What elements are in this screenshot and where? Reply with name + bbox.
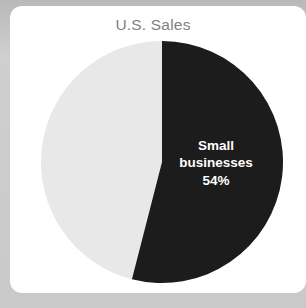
chart-canvas: U.S. Sales Small businesses 54%: [0, 0, 306, 308]
pie-chart-svg: [10, 6, 306, 293]
pie-chart: Small businesses 54%: [10, 6, 306, 293]
chart-card: U.S. Sales Small businesses 54%: [10, 6, 306, 293]
